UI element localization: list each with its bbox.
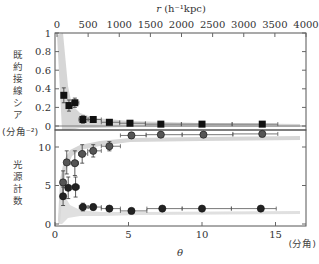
upper-ylabel-char: 線: [13, 85, 23, 96]
shear-square-marker: [126, 120, 133, 127]
upper-y-tick-label: 0.4: [35, 83, 51, 94]
lower-y-tick-label: 0: [45, 219, 51, 230]
count-circle-marker-rising: [71, 160, 78, 167]
count-circle-marker-flat: [159, 205, 166, 212]
upper-ylabel-char: 約: [13, 61, 23, 72]
count-circle-marker-flat: [257, 205, 264, 212]
lower-y-unit: (分角⁻²): [2, 126, 38, 137]
bottom-tick-label: 0: [52, 229, 58, 240]
top-tick-label: 3500: [262, 19, 287, 30]
count-circle-marker-rising: [200, 131, 207, 138]
count-circle-marker-flat: [90, 203, 97, 210]
shear-square-marker: [60, 92, 67, 99]
count-circle-marker-rising: [79, 150, 86, 157]
shear-square-marker: [199, 121, 206, 128]
count-circle-marker-flat: [59, 193, 66, 200]
bottom-tick-label: 5: [125, 229, 131, 240]
x-axis-title: θ: [177, 247, 183, 258]
bottom-tick-label: 15: [269, 229, 282, 240]
lower-y-tick-label: 5: [45, 180, 51, 191]
data-series: [59, 88, 277, 215]
count-circle-marker-flat: [79, 203, 86, 210]
upper-ylabel-char: 既: [13, 49, 23, 60]
shear-square-marker: [71, 99, 78, 106]
shear-square-marker: [259, 121, 266, 128]
top-tick-label: 4000: [293, 19, 318, 30]
upper-y-tick-label: 0: [45, 121, 51, 132]
upper-panel-frame: [55, 33, 306, 130]
top-tick-label: 3000: [231, 19, 256, 30]
top-tick-label: 0: [54, 19, 60, 30]
weak-lensing-chart: 0500100015002000250030003500400000.20.40…: [0, 0, 319, 264]
top-axis-title: r (h⁻¹kpc): [156, 3, 206, 14]
shear-square-marker: [90, 116, 97, 123]
count-circle-marker-rising: [128, 132, 135, 139]
upper-model-band: [57, 33, 300, 130]
count-circle-marker-flat: [128, 207, 135, 214]
count-circle-marker-flat: [198, 205, 205, 212]
count-circle-marker-rising: [106, 143, 113, 150]
shear-square-marker: [106, 119, 113, 126]
lower-ylabel-char: 光: [13, 159, 23, 170]
plot-frame: [55, 33, 306, 226]
model-bands: [57, 33, 300, 224]
upper-y-tick-label: 0.6: [35, 65, 51, 76]
count-circle-marker-flat: [72, 183, 79, 190]
top-tick-label: 2000: [169, 19, 194, 30]
upper-ylabel-char: 接: [13, 73, 23, 84]
top-tick-label: 500: [79, 19, 98, 30]
count-circle-marker-flat: [65, 184, 72, 191]
shear-square-marker: [79, 116, 86, 123]
lower-y-tick-label: 10: [38, 142, 51, 153]
count-circle-marker-rising: [259, 130, 266, 137]
upper-ylabel-char: シ: [13, 97, 23, 108]
bottom-tick-label: 10: [196, 229, 209, 240]
lower-ylabel-char: 源: [13, 171, 23, 182]
upper-ylabel-char: ア: [13, 109, 23, 120]
count-circle-marker-rising: [90, 147, 97, 154]
upper-y-tick-label: 0.8: [35, 46, 51, 57]
upper-y-tick-label: 1: [45, 28, 51, 39]
x-axis-unit: (分角): [289, 238, 316, 249]
top-tick-label: 1500: [138, 19, 163, 30]
lower-ylabel-char: 数: [13, 195, 23, 206]
count-circle-marker-rising: [157, 131, 164, 138]
count-circle-marker-rising: [63, 159, 70, 166]
lower-ylabel-char: 計: [13, 183, 23, 194]
top-tick-label: 1000: [107, 19, 132, 30]
upper-y-tick-label: 0.2: [35, 102, 51, 113]
shear-square-marker: [157, 121, 164, 128]
top-tick-label: 2500: [200, 19, 225, 30]
count-circle-marker-flat: [106, 205, 113, 212]
